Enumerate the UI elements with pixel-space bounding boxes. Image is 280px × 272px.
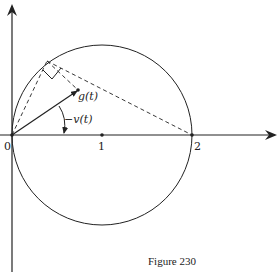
- label-2: 2: [194, 141, 201, 152]
- figure-caption: Figure 230: [148, 256, 196, 267]
- figure-230: 0 1 2 g(t) −v(t) Figure 230: [0, 0, 280, 272]
- diagram-canvas: [0, 0, 280, 272]
- point-2: [190, 133, 194, 137]
- label-angle: −v(t): [64, 114, 92, 125]
- label-origin: 0: [4, 141, 11, 152]
- origin-point: [10, 133, 14, 137]
- label-g: g(t): [78, 91, 98, 102]
- point-1: [100, 133, 104, 137]
- right-angle-marker: [43, 68, 61, 79]
- dashed-origin-to-point: [12, 61, 47, 135]
- dashed-point-to-g: [47, 61, 78, 90]
- label-1: 1: [98, 141, 105, 152]
